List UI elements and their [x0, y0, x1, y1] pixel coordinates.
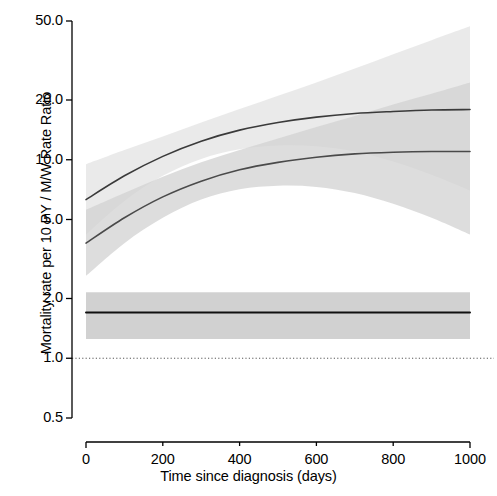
confidence-bands-group: [86, 26, 470, 339]
x-tick-label: 400: [200, 451, 280, 467]
y-tick-label: 20.0: [35, 91, 63, 107]
y-tick-label: 2.0: [43, 289, 63, 305]
x-axis-title: Time since diagnosis (days): [0, 468, 497, 484]
plot-canvas: [0, 0, 497, 496]
y-tick-label: 1.0: [43, 349, 63, 365]
x-tick-label: 200: [123, 451, 203, 467]
y-tick-label: 5.0: [43, 211, 63, 227]
x-tick-label: 800: [353, 451, 433, 467]
x-tick-label: 0: [46, 451, 126, 467]
x-tick-label: 600: [276, 451, 356, 467]
x-tick-label: 1000: [430, 451, 497, 467]
y-tick-label: 0.5: [43, 409, 63, 425]
y-tick-label: 50.0: [35, 12, 63, 28]
rate-ratio-95ci: [86, 292, 470, 339]
y-tick-label: 10.0: [35, 151, 63, 167]
mortality-rate-ratio-chart: Mortality rate per 10 PY / M/W Rate Rati…: [0, 0, 497, 496]
